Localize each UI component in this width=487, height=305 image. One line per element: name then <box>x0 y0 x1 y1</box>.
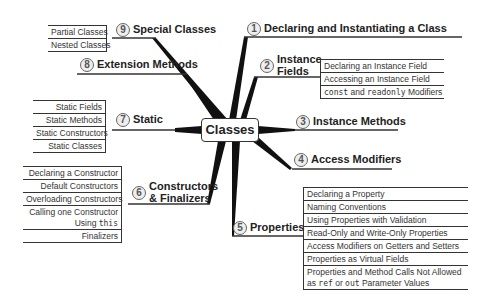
properties-subitems: Declaring a Property Naming Conventions … <box>303 187 468 290</box>
subitem-naming-conventions[interactable]: Naming Conventions <box>304 201 468 214</box>
topic-instance-methods[interactable]: 3Instance Methods <box>296 115 406 129</box>
static-subitems: Static Fields Static Methods Static Cons… <box>33 100 106 153</box>
number-4-icon: 4 <box>294 153 308 167</box>
subitem-readonly-writeonly[interactable]: Read-Only and Write-Only Properties <box>304 227 468 240</box>
subitem-properties-validation[interactable]: Using Properties with Validation <box>304 214 468 227</box>
subitem-const-readonly[interactable]: const and readonly Modifiers <box>321 86 444 99</box>
number-3-icon: 3 <box>296 115 310 129</box>
topic-instance-fields[interactable]: 2 Instance Fields <box>260 53 322 77</box>
subitem-default-constructors[interactable]: Default Constructors <box>23 180 121 193</box>
subitem-calling-one-constructor[interactable]: Calling one ConstructorUsing this <box>23 206 121 230</box>
topic-declaring-instantiating[interactable]: 1Declaring and Instantiating a Class <box>247 22 447 36</box>
number-6-icon: 6 <box>132 186 146 200</box>
subitem-declaring-property[interactable]: Declaring a Property <box>304 187 468 201</box>
topic-static[interactable]: 7Static <box>116 113 163 127</box>
subitem-static-fields[interactable]: Static Fields <box>33 100 105 114</box>
subitem-static-constructors[interactable]: Static Constructors <box>33 127 105 140</box>
number-1-icon: 1 <box>247 22 261 36</box>
topic-extension-methods[interactable]: 8Extension Methods <box>80 58 198 72</box>
subitem-finalizers[interactable]: Finalizers <box>23 230 121 243</box>
subitem-partial-classes[interactable]: Partial Classes <box>48 25 106 39</box>
central-topic-classes[interactable]: Classes <box>201 118 259 142</box>
number-8-icon: 8 <box>80 58 94 72</box>
topic-special-classes[interactable]: 9Special Classes <box>116 23 216 37</box>
subitem-virtual-fields[interactable]: Properties as Virtual Fields <box>304 253 468 266</box>
topic-constructors-finalizers[interactable]: 6 Constructors & Finalizers <box>132 180 218 204</box>
number-9-icon: 9 <box>116 23 130 37</box>
special-classes-subitems: Partial Classes Nested Classes <box>48 25 107 52</box>
number-5-icon: 5 <box>233 221 247 235</box>
constructors-subitems: Declaring a Constructor Default Construc… <box>23 166 122 243</box>
number-7-icon: 7 <box>116 113 130 127</box>
number-2-icon: 2 <box>260 59 274 73</box>
subitem-accessing-instance-field[interactable]: Accessing an Instance Field <box>321 73 444 86</box>
subitem-declaring-constructor[interactable]: Declaring a Constructor <box>23 166 121 180</box>
instance-fields-subitems: Declaring an Instance Field Accessing an… <box>320 59 444 99</box>
subitem-static-methods[interactable]: Static Methods <box>33 114 105 127</box>
subitem-access-modifiers-getters-setters[interactable]: Access Modifiers on Getters and Setters <box>304 240 468 253</box>
topic-access-modifiers[interactable]: 4Access Modifiers <box>294 153 401 167</box>
subitem-nested-classes[interactable]: Nested Classes <box>48 39 106 52</box>
subitem-overloading-constructors[interactable]: Overloading Constructors <box>23 193 121 206</box>
subitem-ref-out-not-allowed[interactable]: Properties and Method Calls Not Alloweda… <box>304 266 468 290</box>
subitem-declaring-instance-field[interactable]: Declaring an Instance Field <box>321 59 444 73</box>
topic-properties[interactable]: 5Properties <box>233 221 304 235</box>
subitem-static-classes[interactable]: Static Classes <box>33 140 105 153</box>
